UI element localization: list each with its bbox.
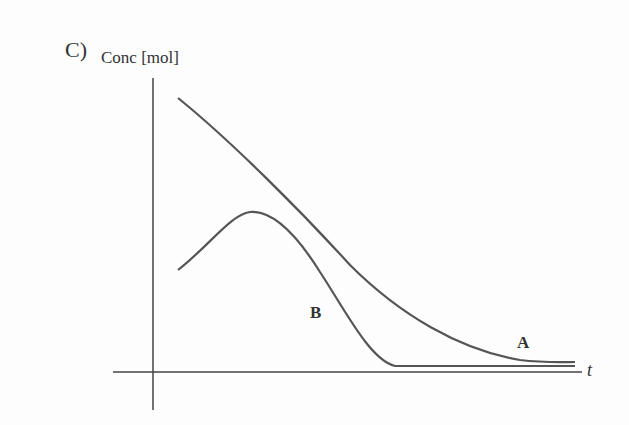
chart-canvas	[0, 0, 629, 425]
curve-a	[178, 98, 575, 362]
